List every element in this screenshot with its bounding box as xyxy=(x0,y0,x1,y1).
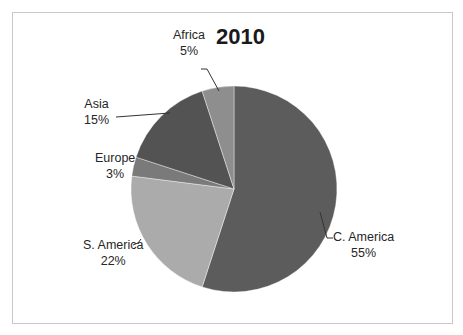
pie-chart xyxy=(0,0,463,335)
data-label-s-america: S. America 22% xyxy=(83,237,143,269)
label-s-america-pct: 22% xyxy=(83,253,143,269)
label-asia-name: Asia xyxy=(84,96,109,112)
label-africa-pct: 5% xyxy=(173,43,205,59)
data-label-europe: Europe 3% xyxy=(95,150,135,182)
data-label-africa: Africa 5% xyxy=(173,27,205,59)
chart-title: 2010 xyxy=(216,24,265,50)
data-label-asia: Asia 15% xyxy=(84,96,109,128)
label-c-america-pct: 55% xyxy=(333,245,394,261)
pie-slices xyxy=(131,86,337,292)
label-s-america-name: S. America xyxy=(83,237,143,253)
label-c-america-name: C. America xyxy=(333,229,394,245)
label-europe-name: Europe xyxy=(95,150,135,166)
label-africa-name: Africa xyxy=(173,27,205,43)
label-europe-pct: 3% xyxy=(95,166,135,182)
label-asia-pct: 15% xyxy=(84,112,109,128)
data-label-c-america: C. America 55% xyxy=(333,229,394,261)
